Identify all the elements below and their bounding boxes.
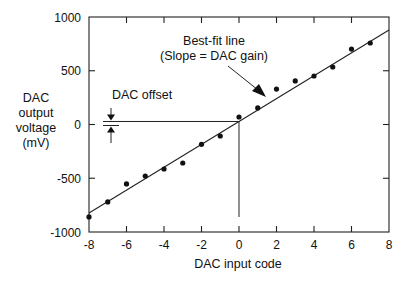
data-point xyxy=(236,114,241,119)
x-tick-label: 0 xyxy=(236,238,243,252)
data-point xyxy=(368,40,373,45)
y-axis-title-line-4: (mV) xyxy=(22,136,49,150)
data-point xyxy=(330,64,335,69)
y-tick-label: -1000 xyxy=(50,226,81,240)
data-point xyxy=(124,181,129,186)
arrow-down-icon xyxy=(107,114,115,120)
data-point xyxy=(349,46,354,51)
x-tick-label: 4 xyxy=(311,238,318,252)
x-tick-label: -4 xyxy=(159,238,170,252)
x-axis-tick-labels: -8-6-4-202468 xyxy=(84,238,393,252)
data-point xyxy=(199,142,204,147)
y-tick-label: 1000 xyxy=(54,11,81,25)
y-tick-label: 500 xyxy=(61,64,81,78)
data-point xyxy=(274,86,279,91)
x-tick-label: 2 xyxy=(273,238,280,252)
x-tick-label: -8 xyxy=(84,238,95,252)
data-point xyxy=(86,214,91,219)
best-fit-label-line-2: (Slope = DAC gain) xyxy=(160,49,268,63)
data-point xyxy=(105,199,110,204)
y-axis-title-line-1: DAC xyxy=(23,91,49,105)
x-tick-label: -6 xyxy=(121,238,132,252)
dac-transfer-chart: -8-6-4-202468 10005000-500-1000 DAC inpu… xyxy=(0,0,408,285)
y-tick-label: 0 xyxy=(74,118,81,132)
arrow-up-icon xyxy=(107,127,115,133)
data-point xyxy=(218,133,223,138)
offset-label: DAC offset xyxy=(112,88,173,102)
y-axis-title-line-2: output xyxy=(19,106,54,120)
x-tick-label: -2 xyxy=(196,238,207,252)
x-tick-label: 8 xyxy=(386,238,393,252)
y-tick-label: -500 xyxy=(57,172,81,186)
x-axis-title: DAC input code xyxy=(194,257,282,271)
data-point xyxy=(161,166,166,171)
y-axis-title-line-3: voltage xyxy=(16,121,56,135)
best-fit-pointer-arrowhead-icon xyxy=(252,84,266,97)
data-point xyxy=(180,160,185,165)
best-fit-label-line-1: Best-fit line xyxy=(183,34,245,48)
best-fit-pointer-shaft xyxy=(228,66,258,90)
data-point xyxy=(293,78,298,83)
y-axis-title: DAC output voltage (mV) xyxy=(16,91,56,150)
data-point xyxy=(143,173,148,178)
data-point xyxy=(311,73,316,78)
data-point xyxy=(255,105,260,110)
x-tick-label: 6 xyxy=(348,238,355,252)
